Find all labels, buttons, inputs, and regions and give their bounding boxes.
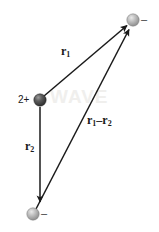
vector-label-r1: r1 [61, 45, 70, 57]
vector-label-r1-subscript: 1 [66, 50, 70, 59]
vector-diagram-figure: WAVE [0, 0, 159, 232]
vector-label-r1r2-subscript1: 1 [92, 119, 96, 128]
charge-label-positive: 2+ [18, 95, 29, 105]
vector-label-r2: r2 [25, 140, 34, 152]
charge-label-negative-top: – [141, 14, 147, 25]
vector-label-r1r2-symbol2: r [102, 113, 107, 127]
charge-label-negative-bottom: – [41, 208, 47, 219]
sphere-positive-charge [34, 94, 46, 106]
sphere-negative-charge-top [127, 14, 139, 26]
vector-line-r1-minus-r2 [36, 30, 129, 210]
vector-label-r1r2-subscript2: 2 [108, 119, 112, 128]
vector-label-r1-minus-r2: r1–r2 [87, 114, 112, 126]
sphere-negative-charge-bottom [27, 208, 39, 220]
diagram-canvas [0, 0, 159, 232]
vector-label-r2-subscript: 2 [30, 145, 34, 154]
vector-line-r1 [44, 26, 127, 97]
